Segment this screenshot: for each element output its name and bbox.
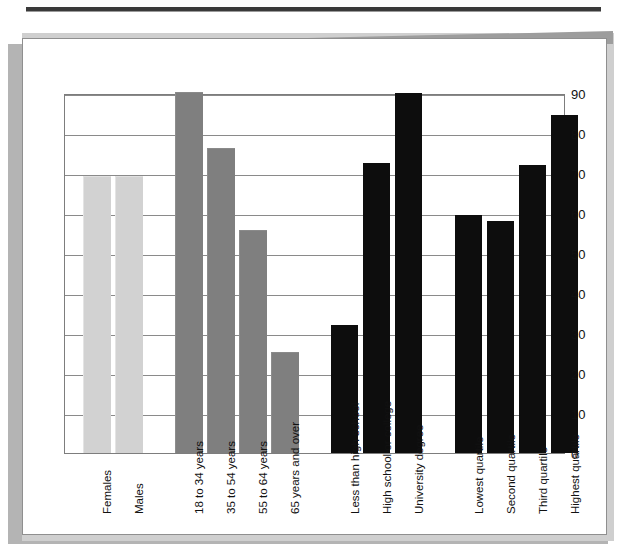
x-axis-label-55-to-64-years: 55 to 64 years [257, 441, 269, 514]
y-axis-tick-80: 80 [571, 127, 585, 142]
gridline-90 [65, 95, 564, 96]
y-axis-tick-30: 30 [571, 327, 585, 342]
bar-second-quartile [487, 221, 514, 453]
page-top-rule-thin [26, 11, 601, 12]
y-axis-tick-20: 20 [571, 367, 585, 382]
y-axis-tick-90: 90 [571, 87, 585, 102]
gridline-80 [65, 135, 564, 136]
x-axis-label-third-quartile: Third quartile [537, 447, 549, 514]
bar-university-degree [395, 93, 422, 453]
bar-chart-plot-area [64, 94, 565, 454]
bar-18-to-34-years [175, 92, 203, 453]
bar-third-quartile [519, 165, 546, 453]
y-axis-tick-70: 70 [571, 167, 585, 182]
y-axis-tick-50: 50 [571, 247, 585, 262]
x-axis-label-35-to-54-years: 35 to 54 years [225, 441, 237, 514]
x-axis-label-second-quartile: Second quartile [505, 434, 517, 514]
bar-55-to-64-years [239, 230, 267, 453]
x-axis-label-males: Males [133, 483, 145, 514]
x-axis-label-less-than-high-school: Less than high school [349, 403, 361, 514]
x-axis-label-18-to-34-years: 18 to 34 years [193, 441, 205, 514]
x-axis-label-university-degree: University degree [413, 425, 425, 514]
y-axis-tick-60: 60 [571, 207, 585, 222]
x-axis-label-65-years-and-over: 65 years and over [289, 422, 301, 514]
x-axis-label-females: Females [101, 470, 113, 514]
y-axis-tick-0: 0 [571, 447, 578, 462]
bar-females [83, 176, 111, 453]
x-axis-label-high-school-or-college: High school or college [381, 401, 393, 514]
bar-lowest-quartile [455, 215, 482, 453]
bar-35-to-54-years [207, 148, 235, 453]
bar-males [115, 176, 143, 453]
y-axis-tick-10: 10 [571, 407, 585, 422]
y-axis-tick-40: 40 [571, 287, 585, 302]
x-axis-label-lowest-quartile: Lowest quartile [473, 437, 485, 514]
report-page: FemalesMales18 to 34 years35 to 54 years… [22, 38, 607, 535]
